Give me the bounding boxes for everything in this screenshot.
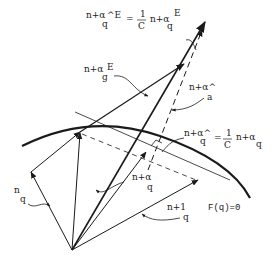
svg-text:E: E (174, 8, 181, 18)
leader-q-E (114, 76, 148, 96)
svg-text:n+α: n+α (132, 172, 151, 182)
svg-text:q: q (102, 19, 108, 29)
leader-q-n (28, 204, 50, 206)
diagram-canvas: n+α ^E q = 1 C n+α E q n+α E g n+α^ a n+… (0, 0, 272, 262)
label-q-n: n q (14, 185, 26, 204)
label-q-hat-E-equation: n+α ^E q = 1 C n+α E q (86, 8, 181, 31)
vector-q-surface (72, 133, 80, 250)
vector-q-n-alpha (72, 152, 146, 250)
svg-text:=: = (126, 14, 134, 24)
svg-text:^E: ^E (107, 10, 121, 20)
svg-text:g: g (102, 72, 108, 82)
vector-q-n (31, 172, 72, 250)
svg-text:q: q (183, 212, 189, 222)
svg-text:n+α: n+α (84, 64, 103, 74)
right-angle-marker (151, 140, 162, 146)
svg-text:C: C (224, 140, 231, 150)
svg-text:q: q (200, 136, 206, 146)
svg-text:n+α^: n+α^ (184, 128, 211, 138)
svg-text:C: C (138, 21, 145, 31)
svg-text:q: q (167, 21, 173, 31)
svg-text:E: E (107, 62, 114, 72)
svg-text:n+α: n+α (236, 132, 255, 142)
svg-text:=: = (214, 133, 222, 143)
label-q-hat-equation: n+α^ q = 1 C n+α q (184, 128, 262, 150)
label-constraint: F(q)=0 (208, 203, 240, 213)
svg-text:q: q (256, 139, 262, 149)
leader-a-hat (172, 98, 204, 110)
svg-text:n+α^: n+α^ (189, 82, 216, 92)
svg-text:n+1: n+1 (167, 202, 186, 212)
tangent-line (75, 112, 230, 180)
svg-text:q: q (20, 194, 26, 204)
svg-text:1: 1 (226, 128, 232, 138)
vector-q-E (80, 64, 184, 132)
svg-text:1: 1 (140, 9, 146, 19)
label-q-n-plus-1: n+1 q (167, 202, 189, 222)
vector-q-n-plus-1 (72, 180, 198, 250)
svg-text:a: a (207, 92, 213, 102)
leader-q-n-plus-1 (142, 214, 180, 220)
label-q-E: n+α E g (84, 62, 114, 82)
label-q-n-alpha: n+α q (132, 172, 153, 192)
svg-text:q: q (147, 182, 153, 192)
